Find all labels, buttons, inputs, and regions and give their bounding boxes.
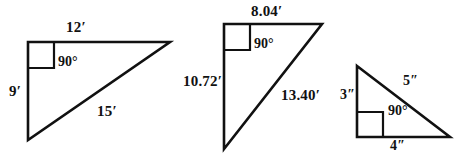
triangle-1-shape bbox=[28, 42, 170, 140]
triangle-3-right-angle-marker bbox=[357, 112, 383, 137]
triangle-1-left-side-label: 9′ bbox=[9, 84, 21, 99]
triangle-3-hypotenuse-label: 5″ bbox=[403, 74, 418, 88]
triangle-2-right-angle-marker bbox=[224, 24, 250, 50]
triangle-1-hypotenuse-label: 15′ bbox=[97, 104, 117, 119]
triangle-1-outline bbox=[28, 42, 170, 140]
triangles-figure: 12′ 9′ 15′ 90° 8.04′ 10.72′ 13.40′ 90° 3… bbox=[0, 0, 463, 162]
triangle-1-right-angle-label: 90° bbox=[58, 55, 78, 69]
triangle-3-left-side-label: 3″ bbox=[340, 88, 355, 102]
triangle-1-top-side-label: 12′ bbox=[66, 20, 86, 35]
triangle-1-right-angle-marker bbox=[28, 42, 54, 68]
triangle-3-right-angle-label: 90° bbox=[388, 104, 408, 118]
triangle-2-hypotenuse-label: 13.40′ bbox=[281, 88, 320, 103]
triangle-2-right-angle-label: 90° bbox=[254, 37, 274, 51]
triangle-3-bottom-side-label: 4″ bbox=[390, 139, 405, 153]
triangle-2-left-side-label: 10.72′ bbox=[183, 74, 222, 89]
triangle-2-top-side-label: 8.04′ bbox=[251, 4, 282, 19]
